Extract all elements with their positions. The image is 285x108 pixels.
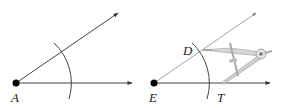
point-a	[13, 80, 20, 87]
label-t: T	[217, 90, 225, 105]
compass-icon	[203, 43, 272, 84]
ray-upper-a	[16, 13, 118, 83]
label-d: D	[182, 43, 193, 58]
point-e	[151, 80, 158, 87]
compass-construction-diagram: A E D T	[0, 0, 285, 108]
label-a: A	[10, 90, 19, 105]
label-e: E	[148, 90, 157, 105]
right-figure: E D T	[148, 13, 272, 105]
left-figure: A	[10, 13, 132, 105]
